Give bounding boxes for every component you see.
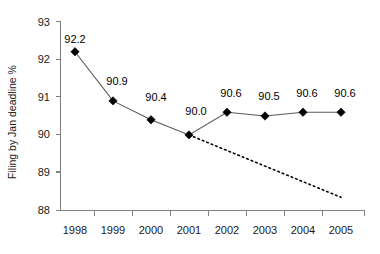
x-tick-label: 2001: [177, 224, 201, 236]
y-axis-tick-labels: 93 92 91 90 89 88: [38, 16, 50, 217]
y-tick-label: 91: [38, 91, 50, 103]
x-axis-tick-labels: 1998 1999 2000 2001 2002 2003 2004 2005: [63, 224, 353, 236]
data-label: 90.9: [106, 75, 127, 87]
x-tick-label: 2005: [329, 224, 353, 236]
data-label: 90.6: [220, 87, 241, 99]
y-tick-label: 90: [38, 128, 50, 140]
y-tick-label: 92: [38, 53, 50, 65]
y-axis-title: Filing by Jan deadline %: [6, 65, 18, 179]
line-chart: Filing by Jan deadline % 93 92 91 90 89 …: [0, 0, 380, 254]
data-label: 92.2: [64, 33, 85, 45]
y-tick-label: 89: [38, 166, 50, 178]
y-tick-label: 88: [38, 204, 50, 216]
data-point-marker: [147, 116, 155, 124]
x-tick-label: 1998: [63, 224, 87, 236]
chart-container: Filing by Jan deadline % 93 92 91 90 89 …: [0, 0, 380, 254]
data-label: 90.6: [334, 87, 355, 99]
data-point-marker: [261, 112, 269, 120]
data-point-marker: [337, 108, 345, 116]
x-tick-label: 2000: [139, 224, 163, 236]
x-tick-label: 2003: [253, 224, 277, 236]
data-point-marker: [299, 108, 307, 116]
data-point-labels: 92.2 90.9 90.4 90.0 90.6 90.5 90.6 90.6: [64, 33, 355, 117]
data-label: 90.6: [296, 87, 317, 99]
x-tick-label: 1999: [101, 224, 125, 236]
trend-line: [189, 135, 341, 197]
x-axis-ticks: [95, 211, 365, 216]
y-tick-label: 93: [38, 16, 50, 28]
x-tick-label: 2002: [215, 224, 239, 236]
y-axis-ticks: [56, 22, 61, 211]
data-point-marker: [223, 108, 231, 116]
data-label: 90.5: [258, 90, 279, 102]
data-point-marker: [185, 131, 193, 139]
data-label: 90.0: [185, 105, 206, 117]
data-label: 90.4: [145, 91, 166, 103]
x-tick-label: 2004: [291, 224, 315, 236]
